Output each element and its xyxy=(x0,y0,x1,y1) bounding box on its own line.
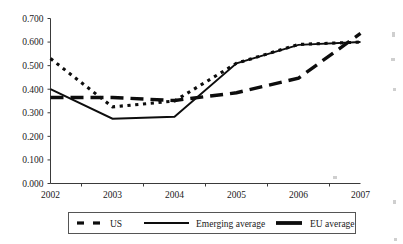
y-tick-label: 0.200 xyxy=(22,132,44,142)
y-tick-label: 0.300 xyxy=(22,108,44,118)
series-line-emerging-average xyxy=(51,42,361,119)
y-axis-tick-labels: 0.7000.6000.5000.4000.3000.2000.1000.000 xyxy=(22,14,44,189)
legend-label-emerging-average: Emerging average xyxy=(196,219,265,229)
legend-label-us: US xyxy=(110,219,122,229)
x-tick-label: 2002 xyxy=(41,190,60,200)
y-tick-label: 0.000 xyxy=(22,179,44,189)
chart-canvas: 0.7000.6000.5000.4000.3000.2000.1000.000… xyxy=(0,0,403,244)
x-tick-label: 2005 xyxy=(227,190,246,200)
y-tick-label: 0.600 xyxy=(22,37,44,47)
y-tick-label: 0.400 xyxy=(22,85,44,95)
chart-legend: US Emerging average EU average xyxy=(69,213,356,234)
x-axis-tick-labels: 200220032004200520062007 xyxy=(41,190,370,200)
x-tick-label: 2007 xyxy=(351,190,370,200)
data-series-group xyxy=(51,33,361,118)
y-tick-label: 0.500 xyxy=(22,61,44,71)
y-tick-label: 0.700 xyxy=(22,14,44,24)
y-tick-label: 0.100 xyxy=(22,155,44,165)
scan-artifacts xyxy=(333,32,397,241)
x-tick-label: 2004 xyxy=(165,190,184,200)
legend-label-eu-average: EU average xyxy=(310,219,355,229)
x-tick-label: 2003 xyxy=(103,190,122,200)
x-tick-label: 2006 xyxy=(289,190,308,200)
line-chart: 0.7000.6000.5000.4000.3000.2000.1000.000… xyxy=(0,0,403,244)
